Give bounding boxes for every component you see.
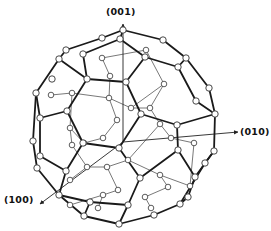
front-bond	[186, 58, 209, 88]
carbon-atom-back	[157, 172, 163, 178]
carbon-atom-back	[147, 105, 153, 111]
front-bond	[126, 57, 145, 82]
front-bond	[40, 111, 67, 118]
carbon-atom-front	[56, 56, 62, 62]
carbon-atom-front	[211, 148, 217, 154]
carbon-atom-back	[142, 194, 148, 200]
front-bond	[119, 215, 154, 224]
front-bond	[33, 141, 37, 168]
carbon-atom-front	[37, 115, 43, 121]
carbon-atom-back	[191, 140, 197, 146]
carbon-atom-front	[116, 221, 122, 227]
axis-label-001: (001)	[106, 6, 136, 17]
front-bond	[84, 216, 119, 224]
carbon-atom-front	[177, 201, 183, 207]
front-bond	[214, 114, 215, 151]
front-bond	[154, 204, 180, 215]
back-bond	[70, 167, 87, 180]
carbon-atom-back	[67, 177, 73, 183]
carbon-atom-front	[138, 111, 144, 117]
front-bond	[177, 125, 178, 150]
back-bond	[146, 50, 164, 84]
carbon-atom-back	[157, 121, 163, 127]
axis-y-arrow	[123, 132, 238, 142]
carbon-atom-front	[183, 55, 189, 61]
back-bond	[103, 120, 117, 138]
front-bond	[90, 202, 128, 205]
carbon-atom-front	[49, 76, 55, 82]
back-bond	[107, 167, 118, 190]
carbon-atom-back	[165, 184, 171, 190]
front-bond	[123, 30, 163, 40]
carbon-atom-front	[80, 140, 86, 146]
carbon-atom-front	[80, 51, 86, 57]
front-bond	[145, 57, 178, 67]
carbon-atom-front	[185, 194, 191, 200]
carbon-atom-front	[99, 35, 105, 41]
carbon-atom-front	[34, 165, 40, 171]
back-bond	[160, 175, 190, 186]
front-bond	[178, 67, 196, 101]
front-bond	[119, 148, 140, 178]
carbon-atom-back	[67, 202, 73, 208]
carbon-atom-front	[142, 54, 148, 60]
carbon-atom-front	[81, 213, 87, 219]
carbon-atom-front	[160, 37, 166, 43]
carbon-atom-front	[116, 145, 122, 151]
carbon-atom-front	[202, 160, 208, 166]
carbon-atom-front	[33, 90, 39, 96]
back-bond	[150, 84, 164, 108]
carbon-atom-back	[106, 95, 112, 101]
carbon-atom-front	[123, 79, 129, 85]
front-bond	[36, 59, 59, 93]
carbon-atom-front	[64, 108, 70, 114]
back-atoms	[48, 47, 197, 211]
carbon-atom-front	[125, 202, 131, 208]
front-bond	[119, 114, 141, 148]
back-bond	[171, 138, 194, 143]
front-bond	[177, 114, 215, 125]
front-bond	[37, 168, 59, 195]
front-bond	[83, 143, 119, 148]
carbon-atom-back	[69, 90, 75, 96]
carbon-atom-front	[206, 85, 212, 91]
front-bond	[87, 79, 126, 82]
carbon-atom-front	[120, 27, 126, 33]
front-bond	[128, 178, 140, 205]
axis-label-010: (010)	[240, 126, 270, 137]
carbon-atom-back	[100, 192, 106, 198]
carbon-atom-front	[175, 147, 181, 153]
carbon-atom-back	[104, 164, 110, 170]
carbon-atom-back	[95, 205, 101, 211]
carbon-atom-front	[193, 98, 199, 104]
carbon-atom-back	[48, 92, 54, 98]
back-bond	[128, 124, 160, 160]
carbon-atom-front	[30, 138, 36, 144]
front-bond	[40, 156, 66, 171]
front-bond	[33, 93, 36, 141]
back-bond	[107, 160, 128, 167]
fullerene-diagram	[0, 0, 271, 231]
front-bond	[59, 171, 66, 195]
front-bond	[163, 40, 186, 58]
carbon-atom-front	[56, 192, 62, 198]
carbon-atom-back	[115, 187, 121, 193]
carbon-atom-back	[100, 135, 106, 141]
front-bond	[59, 59, 87, 79]
front-atoms	[30, 27, 218, 227]
carbon-atom-back	[114, 117, 120, 123]
carbon-atom-back	[107, 73, 113, 79]
carbon-atom-back	[128, 105, 134, 111]
carbon-atom-front	[175, 64, 181, 70]
carbon-atom-back	[84, 164, 90, 170]
carbon-atom-front	[137, 175, 143, 181]
carbon-atom-back	[168, 135, 174, 141]
carbon-atom-back	[69, 142, 75, 148]
carbon-atom-front	[63, 168, 69, 174]
c60-molecule-drawing	[0, 0, 271, 231]
back-bond	[109, 76, 110, 98]
carbon-atom-back	[67, 125, 73, 131]
back-bond	[145, 187, 168, 197]
carbon-atom-back	[148, 205, 154, 211]
carbon-atom-front	[87, 199, 93, 205]
